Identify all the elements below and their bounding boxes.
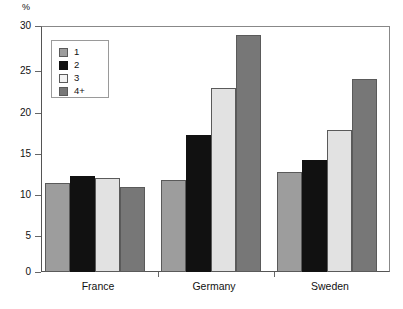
legend-swatch-icon-2 — [59, 61, 68, 70]
bar-france-series-2 — [70, 176, 95, 272]
bar-sweden-series-4plus — [352, 79, 377, 272]
legend-label-4: 4+ — [74, 86, 85, 96]
legend-swatch-icon-4 — [59, 87, 68, 96]
bar-germany-series-4plus — [236, 35, 261, 272]
bar-sweden-series-1 — [277, 172, 302, 272]
legend-label-3: 3 — [74, 73, 79, 83]
legend-item-2: 2 — [59, 59, 108, 71]
bar-sweden-series-3 — [327, 130, 352, 272]
legend-item-4: 4+ — [59, 85, 108, 97]
bar-france-series-1 — [45, 183, 70, 272]
legend-swatch-icon-1 — [59, 48, 68, 57]
bar-sweden-series-2 — [302, 160, 327, 272]
legend-label-1: 1 — [74, 47, 79, 57]
bar-germany-series-3 — [211, 88, 236, 272]
bar-germany-series-1 — [161, 180, 186, 272]
x-axis-label-sweden: Sweden — [290, 281, 370, 292]
bar-chart: % 30 25 20 15 10 5 0 France Germany Swed… — [0, 0, 403, 309]
x-axis-label-france: France — [58, 281, 138, 292]
x-axis-label-germany: Germany — [174, 281, 254, 292]
legend-swatch-icon-3 — [59, 74, 68, 83]
legend-item-1: 1 — [59, 46, 108, 58]
legend-item-3: 3 — [59, 72, 108, 84]
bar-france-series-3 — [95, 178, 120, 272]
bar-france-series-4plus — [120, 187, 145, 272]
legend: 1 2 3 4+ — [51, 40, 109, 98]
legend-label-2: 2 — [74, 60, 79, 70]
bar-germany-series-2 — [186, 135, 211, 272]
